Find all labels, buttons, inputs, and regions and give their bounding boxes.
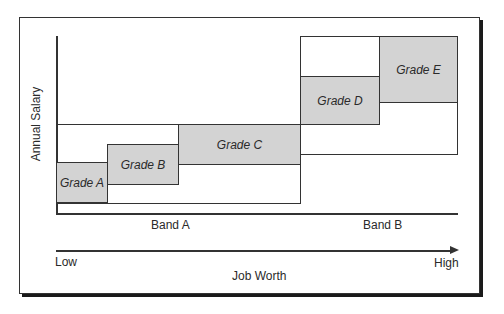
arrow-right-icon (450, 246, 459, 254)
low-label: Low (55, 255, 77, 269)
grade-a-label: Grade A (60, 176, 104, 190)
y-axis-label: Annual Salary (29, 87, 43, 162)
grade-d-box: Grade D (300, 76, 380, 125)
grade-e-label: Grade E (396, 63, 441, 77)
grade-c-box: Grade C (178, 124, 301, 165)
grade-d-label: Grade D (317, 94, 362, 108)
grade-c-label: Grade C (217, 138, 262, 152)
x-axis-label: Job Worth (232, 269, 286, 283)
grade-b-label: Grade B (121, 158, 166, 172)
grade-e-box: Grade E (379, 36, 458, 103)
grade-a-box: Grade A (56, 162, 108, 203)
band-b-label: Band B (363, 218, 402, 232)
high-label: High (434, 256, 459, 270)
job-worth-arrow-line (56, 250, 451, 252)
grade-b-box: Grade B (107, 144, 179, 185)
x-baseline (56, 213, 458, 215)
band-a-label: Band A (151, 218, 190, 232)
